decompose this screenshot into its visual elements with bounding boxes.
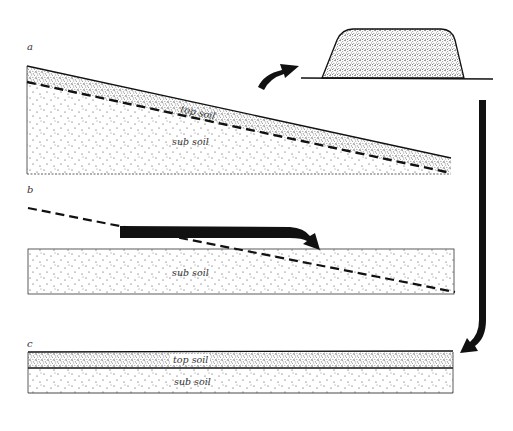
panel-b-cut-fill-arrow-icon — [120, 226, 320, 250]
panel-b-letter: b — [27, 184, 33, 195]
panel-c-top-soil-label: top soil — [173, 354, 208, 365]
arrow-to-panel-c-icon — [460, 100, 486, 353]
panel-c-sub-soil — [28, 369, 453, 393]
panel-b-sub-soil-label: sub soil — [172, 267, 209, 278]
stockpile-ground-line — [301, 78, 493, 79]
panel-c-top-soil — [28, 352, 453, 367]
stockpile — [301, 29, 493, 79]
panel-c: c top soil sub soil — [27, 338, 453, 393]
panel-b-sub-soil — [28, 249, 454, 294]
stockpile-heap — [322, 29, 464, 78]
panel-a-letter: a — [27, 41, 33, 52]
panel-c-sub-soil-label: sub soil — [174, 376, 211, 387]
arrow-to-stockpile-icon — [258, 64, 299, 90]
panel-a-sub-soil-label: sub soil — [172, 136, 209, 147]
terracing-diagram: a top soil sub soil b sub soil c — [0, 0, 513, 431]
panel-c-top-line — [28, 351, 453, 352]
panel-b: b sub soil — [27, 184, 455, 294]
panel-c-letter: c — [27, 338, 33, 349]
